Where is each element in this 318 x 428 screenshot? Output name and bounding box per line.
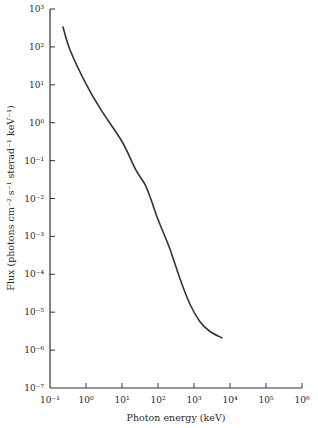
x-axis-ticks: 10⁻¹10⁰10¹10²10³10⁴10⁵10⁶ xyxy=(40,383,310,405)
x-tick-label: 10⁰ xyxy=(78,395,93,405)
x-tick-label: 10³ xyxy=(186,395,201,405)
y-tick-label: 10³ xyxy=(29,4,44,14)
y-tick-label: 10² xyxy=(29,42,44,52)
x-axis-title: Photon energy (keV) xyxy=(127,412,226,423)
x-tick-label: 10⁻¹ xyxy=(40,395,60,405)
y-tick-label: 10⁻⁷ xyxy=(24,383,44,393)
flux-spectrum-curve xyxy=(63,27,222,338)
x-tick-label: 10⁴ xyxy=(222,395,237,405)
y-tick-label: 10⁻¹ xyxy=(24,156,44,166)
y-tick-label: 10¹ xyxy=(29,80,44,90)
y-tick-label: 10⁻² xyxy=(24,194,44,204)
y-tick-label: 10⁻³ xyxy=(24,231,44,241)
flux-vs-energy-chart: 10⁻¹10⁰10¹10²10³10⁴10⁵10⁶ 10³10²10¹10⁰10… xyxy=(0,0,318,428)
x-tick-label: 10⁶ xyxy=(294,395,309,405)
x-tick-label: 10² xyxy=(150,395,165,405)
y-axis-title: Flux (photons cm⁻² s⁻¹ sterad⁻¹ keV⁻¹) xyxy=(5,105,16,290)
x-tick-label: 10¹ xyxy=(114,395,129,405)
data-series xyxy=(63,27,222,338)
y-tick-label: 10⁻⁶ xyxy=(24,345,44,355)
y-tick-label: 10⁻⁴ xyxy=(24,269,44,279)
x-tick-label: 10⁵ xyxy=(258,395,273,405)
y-tick-label: 10⁰ xyxy=(29,118,44,128)
plot-axes xyxy=(50,9,302,388)
y-tick-label: 10⁻⁵ xyxy=(24,307,44,317)
